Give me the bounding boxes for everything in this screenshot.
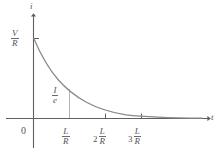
fraction-i-over-e: I e	[52, 86, 58, 106]
annotation-label-i-over-e: I e	[52, 86, 58, 106]
fraction-l-over-r: L R	[134, 127, 142, 147]
x-tick-label-1: L R	[61, 127, 70, 147]
x-tick-label-2: 2 L R	[93, 127, 106, 147]
x-tick-coefficient-3: 3	[128, 135, 134, 144]
x-tick-label-3: 3 L R	[128, 127, 141, 147]
plot-canvas	[0, 0, 221, 154]
exponential-decay-figure: i t 0 V R I e L R 2 L R 3 L R	[0, 0, 221, 154]
fraction-denominator: R	[62, 137, 70, 146]
fraction-denominator: R	[134, 137, 142, 146]
origin-label: 0	[21, 126, 26, 136]
y-axis-label: i	[30, 2, 33, 11]
decay-curve	[34, 39, 202, 119]
fraction-denominator: R	[11, 39, 19, 48]
y-tick-label-vr: V R	[11, 29, 19, 49]
fraction-l-over-r: L R	[99, 127, 107, 147]
x-axis-label: t	[211, 113, 214, 122]
fraction-l-over-r: L R	[62, 127, 70, 147]
x-tick-coefficient-2: 2	[93, 135, 99, 144]
fraction-denominator: e	[52, 96, 58, 105]
fraction-v-over-r: V R	[11, 29, 19, 49]
fraction-denominator: R	[99, 137, 107, 146]
